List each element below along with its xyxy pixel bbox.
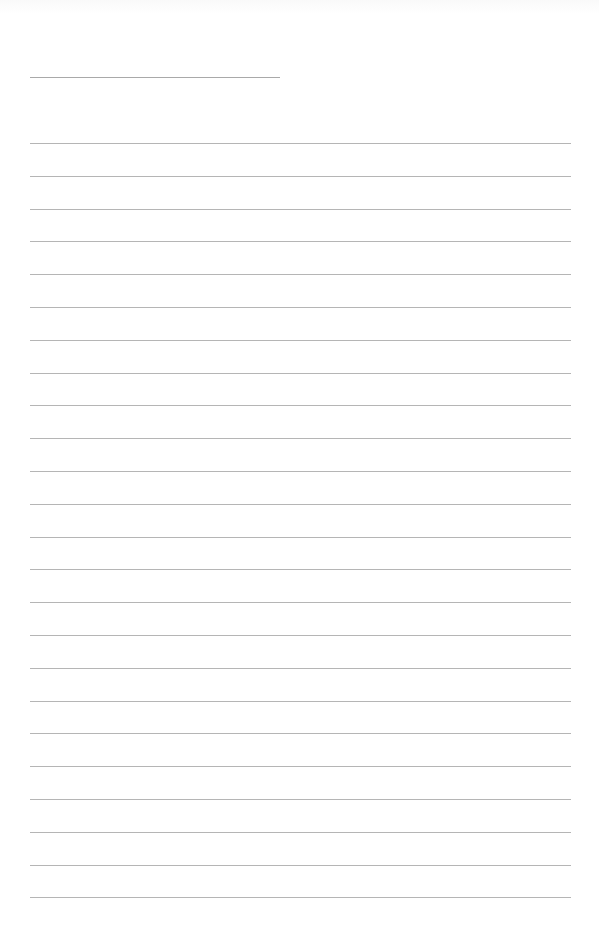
ruled-line bbox=[30, 897, 571, 898]
ruled-line bbox=[30, 241, 571, 242]
ruled-line bbox=[30, 504, 571, 505]
ruled-line bbox=[30, 635, 571, 636]
ruled-line bbox=[30, 865, 571, 866]
ruled-line bbox=[30, 701, 571, 702]
ruled-line bbox=[30, 307, 571, 308]
ruled-line bbox=[30, 733, 571, 734]
ruled-line bbox=[30, 832, 571, 833]
ruled-line bbox=[30, 471, 571, 472]
ruled-line bbox=[30, 176, 571, 177]
ruled-line bbox=[30, 766, 571, 767]
ruled-line bbox=[30, 143, 571, 144]
ruled-line bbox=[30, 209, 571, 210]
lined-paper-page bbox=[0, 0, 599, 949]
ruled-line bbox=[30, 537, 571, 538]
ruled-line bbox=[30, 340, 571, 341]
ruled-line bbox=[30, 405, 571, 406]
ruled-line bbox=[30, 274, 571, 275]
ruled-line bbox=[30, 438, 571, 439]
ruled-line bbox=[30, 373, 571, 374]
heading-write-line bbox=[30, 77, 280, 78]
ruled-line bbox=[30, 602, 571, 603]
ruled-line bbox=[30, 569, 571, 570]
scan-edge-shadow bbox=[0, 0, 599, 14]
ruled-line bbox=[30, 668, 571, 669]
ruled-line bbox=[30, 799, 571, 800]
